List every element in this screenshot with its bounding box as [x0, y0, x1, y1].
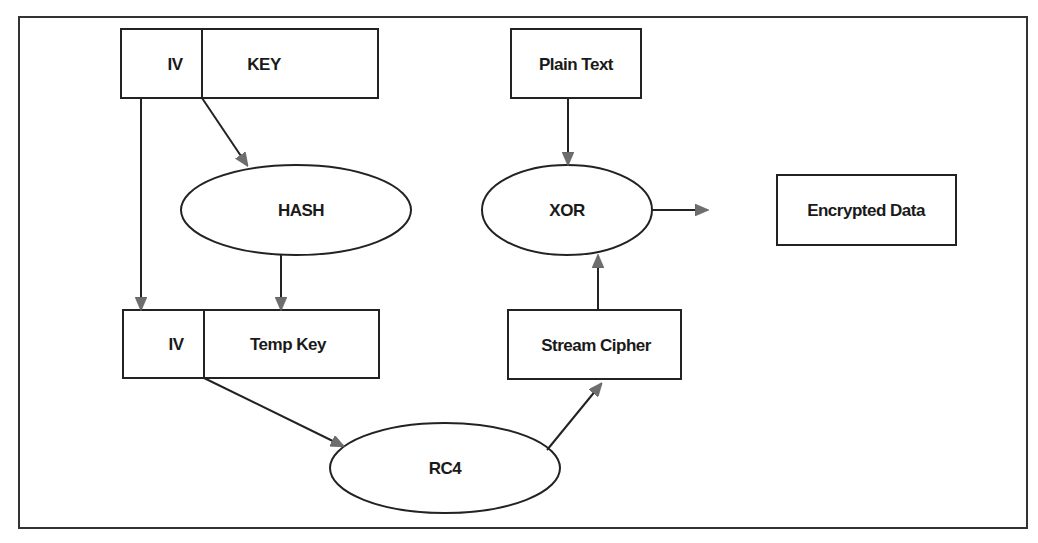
stream-cipher-box: Stream Cipher: [508, 310, 681, 379]
stream-cipher-label: Stream Cipher: [541, 336, 652, 355]
hash-node: HASH: [181, 165, 411, 255]
xor-node: XOR: [482, 165, 652, 255]
encrypted-data-label: Encrypted Data: [807, 201, 926, 220]
tempkey-label: Temp Key: [250, 335, 327, 354]
iv-label: IV: [167, 55, 183, 74]
arrow-rc4-to-stream-cipher: [547, 384, 601, 450]
wep-encryption-diagram: IV KEY HASH IV Temp Key RC4 Plain Text: [0, 0, 1038, 543]
iv-label-2: IV: [168, 335, 184, 354]
arrow-tempkey-to-rc4: [204, 378, 343, 446]
iv-tempkey-box: IV Temp Key: [123, 310, 379, 378]
rc4-label: RC4: [429, 459, 463, 478]
arrow-key-to-hash: [202, 98, 247, 165]
rc4-node: RC4: [330, 423, 560, 513]
hash-label: HASH: [278, 201, 324, 220]
iv-key-box: IV KEY: [121, 29, 378, 98]
xor-label: XOR: [549, 201, 585, 220]
plain-text-box: Plain Text: [511, 29, 641, 98]
plain-text-label: Plain Text: [539, 55, 614, 74]
key-label: KEY: [247, 55, 282, 74]
encrypted-data-box: Encrypted Data: [777, 175, 956, 245]
